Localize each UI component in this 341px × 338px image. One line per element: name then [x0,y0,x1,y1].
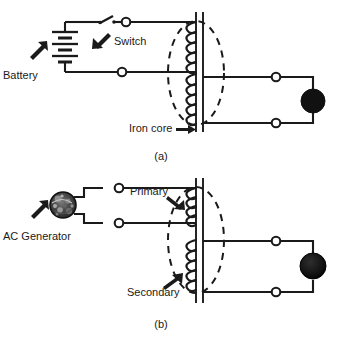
terminal-a-top-left[interactable] [122,18,131,27]
iron-core-label: Iron core [129,122,172,134]
caption-b: (b) [154,318,167,330]
switch-pivot [98,21,102,25]
switch-contact [112,20,116,24]
terminal-a-bottom-right[interactable] [272,119,281,128]
ac-generator-label: AC Generator [3,230,71,242]
terminal-b-bottom-right[interactable] [272,288,281,297]
figure-canvas: Battery Switch Iron core (a) [0,0,341,338]
load-lamp-b [300,253,326,279]
caption-a: (a) [154,150,167,162]
secondary-label: Secondary [127,286,180,298]
terminal-b-mid-left[interactable] [115,219,124,228]
terminal-a-mid-left[interactable] [118,68,127,77]
terminal-a-top-right[interactable] [272,73,281,82]
switch-label: Switch [114,35,146,47]
transformer-figure: Battery Switch Iron core (a) [0,0,341,338]
battery-label: Battery [3,69,38,81]
primary-label: Primary [130,185,168,197]
load-lamp-a [301,89,325,113]
terminal-b-top-right[interactable] [272,237,281,246]
terminal-b-top-left[interactable] [115,184,124,193]
